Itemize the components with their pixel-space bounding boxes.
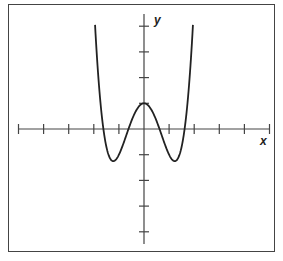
x-axis-label: x <box>259 134 268 148</box>
axes <box>19 14 270 244</box>
y-axis-label: y <box>153 13 162 27</box>
plot-area: y x <box>0 0 283 261</box>
